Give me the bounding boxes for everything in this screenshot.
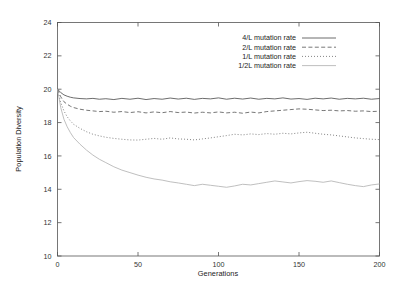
chart-background bbox=[0, 0, 412, 287]
population-diversity-line-chart: 1012141618202224 050100150200 Generation… bbox=[0, 0, 412, 287]
y-tick-label: 14 bbox=[44, 185, 52, 194]
x-tick-label: 100 bbox=[213, 260, 225, 269]
y-tick-label: 22 bbox=[44, 51, 52, 60]
legend-label-1: 2/L mutation rate bbox=[242, 43, 296, 52]
chart-figure: 1012141618202224 050100150200 Generation… bbox=[0, 0, 412, 287]
x-axis-title: Generations bbox=[198, 269, 239, 278]
y-tick-label: 16 bbox=[44, 152, 52, 161]
x-tick-label: 200 bbox=[374, 260, 386, 269]
x-tick-label: 0 bbox=[56, 260, 60, 269]
legend-label-3: 1/2L mutation rate bbox=[238, 61, 296, 70]
y-axis-title: Population Diversity bbox=[14, 106, 23, 172]
x-tick-label: 50 bbox=[134, 260, 142, 269]
y-tick-label: 10 bbox=[44, 252, 52, 261]
y-tick-label: 18 bbox=[44, 118, 52, 127]
y-tick-label: 20 bbox=[44, 85, 52, 94]
y-tick-label: 12 bbox=[44, 218, 52, 227]
legend-label-2: 1/L mutation rate bbox=[242, 52, 296, 61]
y-tick-label: 24 bbox=[44, 18, 52, 27]
legend-label-0: 4/L mutation rate bbox=[242, 33, 296, 42]
x-tick-label: 150 bbox=[293, 260, 305, 269]
